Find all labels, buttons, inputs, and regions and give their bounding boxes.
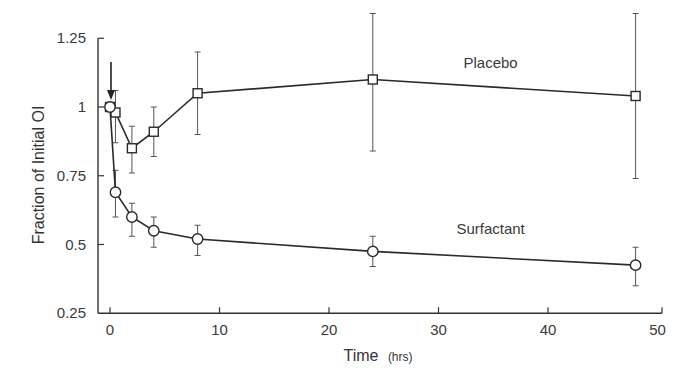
circle-marker bbox=[110, 187, 120, 197]
x-tick-label: 40 bbox=[540, 321, 557, 338]
y-tick-label: 1 bbox=[78, 98, 86, 115]
square-marker bbox=[631, 92, 640, 101]
oi-fraction-chart: 0.250.50.7511.2501020304050 PlaceboSurfa… bbox=[0, 0, 684, 382]
circle-marker bbox=[630, 260, 640, 270]
circle-marker bbox=[127, 212, 137, 222]
series-placebo: Placebo bbox=[106, 14, 641, 179]
y-tick-label: 0.25 bbox=[57, 304, 86, 321]
square-marker bbox=[127, 144, 136, 153]
circle-marker bbox=[105, 102, 115, 112]
x-tick-label: 50 bbox=[649, 321, 666, 338]
y-tick-label: 1.25 bbox=[57, 29, 86, 46]
circle-marker bbox=[368, 246, 378, 256]
x-tick-label: 10 bbox=[211, 321, 228, 338]
dose-arrow-head-icon bbox=[107, 90, 115, 100]
plot-area: PlaceboSurfactant bbox=[105, 14, 641, 286]
square-marker bbox=[149, 127, 158, 136]
y-tick-label: 0.5 bbox=[65, 236, 86, 253]
series-label-placebo: Placebo bbox=[463, 54, 517, 71]
axes: 0.250.50.7511.2501020304050 bbox=[57, 29, 666, 338]
circle-marker bbox=[149, 226, 159, 236]
x-axis-unit: (hrs) bbox=[388, 350, 413, 364]
x-tick-label: 30 bbox=[430, 321, 447, 338]
circle-marker bbox=[192, 234, 202, 244]
series-label-surfactant: Surfactant bbox=[456, 220, 525, 237]
square-marker bbox=[193, 89, 202, 98]
x-axis-title: Time (hrs) bbox=[343, 347, 412, 364]
square-marker bbox=[368, 75, 377, 84]
x-tick-label: 20 bbox=[321, 321, 338, 338]
y-axis-title: Fraction of Initial OI bbox=[30, 106, 47, 245]
x-axis-title-text: Time bbox=[343, 347, 378, 364]
y-tick-label: 0.75 bbox=[57, 167, 86, 184]
x-tick-label: 0 bbox=[106, 321, 114, 338]
